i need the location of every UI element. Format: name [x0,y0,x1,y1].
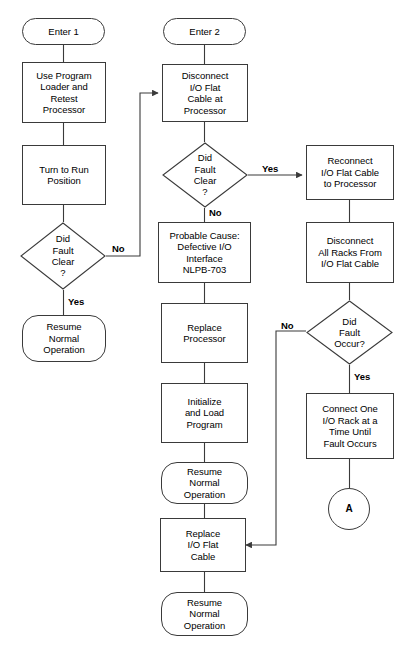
node-replace-processor-label: Replace Processor [181,322,227,345]
node-use-program-loader[interactable]: Use Program Loader and Retest Processor [22,62,106,123]
node-turn-to-run[interactable]: Turn to Run Position [22,145,106,205]
node-use-program-loader-label: Use Program Loader and Retest Processor [34,70,93,116]
node-resume-left-label: Resume Normal Operation [41,321,86,356]
node-initialize-and-load-label: Initialize and Load Program [183,396,226,431]
node-enter-2-label: Enter 2 [187,26,221,38]
node-disconnect-io-cable[interactable]: Disconnect I/O Flat Cable at Processor [162,64,248,122]
node-resume-mid[interactable]: Resume Normal Operation [161,462,248,504]
node-connect-one-rack-label: Connect One I/O Rack at a Time Until Fau… [320,403,379,449]
node-resume-bottom[interactable]: Resume Normal Operation [161,592,248,636]
node-did-fault-occur-label: Did Fault Occur? [306,300,393,365]
node-initialize-and-load[interactable]: Initialize and Load Program [161,383,248,443]
edge-label-mid-no: No [209,207,222,218]
node-probable-cause-label: Probable Cause: Defective I/O Interface … [167,230,241,276]
node-turn-to-run-label: Turn to Run Position [37,164,90,187]
edge-label-left-no: No [112,243,125,254]
node-did-fault-clear-mid-label: Did Fault Clear ? [162,142,248,208]
node-resume-bottom-label: Resume Normal Operation [182,597,227,632]
node-did-fault-clear-left[interactable]: Did Fault Clear ? [20,222,106,290]
node-replace-processor[interactable]: Replace Processor [161,303,248,363]
node-replace-io-cable-label: Replace I/O Flat Cable [184,528,223,563]
edge-label-right-yes: Yes [354,371,370,382]
edge-right-no-to-replaceiocable [246,331,306,545]
node-did-fault-occur[interactable]: Did Fault Occur? [306,300,393,365]
node-probable-cause[interactable]: Probable Cause: Defective I/O Interface … [158,222,251,283]
edge-label-right-no: No [281,320,294,331]
node-replace-io-cable[interactable]: Replace I/O Flat Cable [160,518,246,572]
edge-label-left-yes: Yes [68,296,84,307]
node-did-fault-clear-left-label: Did Fault Clear ? [20,222,106,290]
flowchart-canvas: Enter 1 Use Program Loader and Retest Pr… [0,0,407,647]
node-resume-mid-label: Resume Normal Operation [182,466,227,501]
node-connector-a-label: A [343,503,354,515]
node-reconnect-io-cable-label: Reconnect I/O Flat Cable to Processor [319,155,381,190]
node-enter-1-label: Enter 1 [46,26,80,38]
node-resume-left[interactable]: Resume Normal Operation [22,315,106,362]
node-did-fault-clear-mid[interactable]: Did Fault Clear ? [162,142,248,208]
node-reconnect-io-cable[interactable]: Reconnect I/O Flat Cable to Processor [306,145,394,200]
node-disconnect-all-racks[interactable]: Disconnect All Racks From I/O Flat Cable [306,222,394,283]
node-enter-2[interactable]: Enter 2 [163,18,246,45]
node-connect-one-rack[interactable]: Connect One I/O Rack at a Time Until Fau… [306,393,394,459]
node-disconnect-all-racks-label: Disconnect All Racks From I/O Flat Cable [316,235,384,270]
node-disconnect-io-cable-label: Disconnect I/O Flat Cable at Processor [180,70,231,116]
node-connector-a[interactable]: A [328,488,370,530]
edge-left-no-to-disconnect [106,93,158,256]
node-enter-1[interactable]: Enter 1 [22,18,105,45]
edge-label-mid-yes: Yes [262,163,278,174]
